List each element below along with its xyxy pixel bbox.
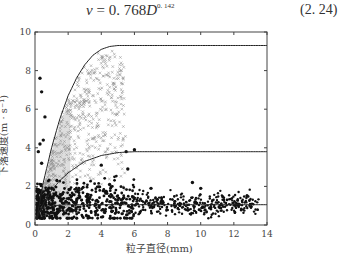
x-tick-label: 6 bbox=[132, 229, 138, 239]
outlier-point bbox=[199, 187, 202, 190]
outlier-point bbox=[40, 162, 43, 165]
outlier-point bbox=[108, 183, 111, 186]
outlier-point bbox=[126, 167, 129, 170]
y-tick-label: 8 bbox=[25, 66, 31, 76]
outlier-point bbox=[37, 150, 40, 153]
x-tick-label: 2 bbox=[65, 229, 71, 239]
outlier-point bbox=[40, 90, 43, 93]
x-tick-label: 0 bbox=[32, 229, 38, 239]
outlier-point bbox=[43, 115, 46, 118]
outlier-point bbox=[245, 194, 248, 197]
outlier-point bbox=[38, 142, 41, 145]
x-tick-label: 4 bbox=[98, 229, 104, 239]
y-tick-label: 2 bbox=[25, 181, 31, 191]
y-tick-label: 0 bbox=[25, 220, 31, 230]
outlier-point bbox=[149, 187, 152, 190]
outlier-point bbox=[100, 163, 103, 166]
outlier-point bbox=[42, 138, 45, 141]
y-tick-label: 4 bbox=[25, 143, 31, 153]
x-tick-label: 8 bbox=[165, 229, 171, 239]
x-tick-label: 10 bbox=[195, 229, 207, 239]
y-tick-label: 6 bbox=[25, 104, 31, 114]
x-tick-label: 14 bbox=[261, 229, 273, 239]
y-tick-label: 10 bbox=[20, 27, 32, 37]
scatter-chart: 024681012140246810 bbox=[0, 0, 358, 259]
outlier-point bbox=[133, 148, 136, 151]
x-axis-label: 粒子直径(mm) bbox=[126, 240, 193, 255]
x-tick-label: 12 bbox=[228, 229, 239, 239]
y-axis-label: 下落速度(m · s⁻¹) bbox=[0, 95, 10, 176]
outlier-point bbox=[38, 77, 41, 80]
outlier-point bbox=[191, 181, 194, 184]
